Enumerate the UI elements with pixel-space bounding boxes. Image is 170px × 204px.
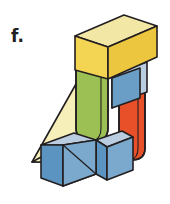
blue-cube-front-left-side — [63, 140, 96, 186]
blue-cube-front-right-left — [96, 140, 107, 180]
figure-container: f. — [0, 0, 170, 204]
block-assembly-illustration — [0, 0, 170, 204]
blue-cube-front-left-front — [41, 145, 63, 186]
part-blue-cube-front-right — [96, 131, 133, 180]
